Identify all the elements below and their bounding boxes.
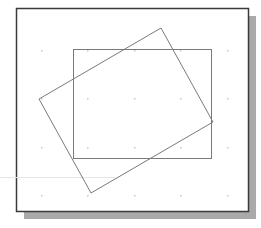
grid-dot: [41, 147, 43, 149]
grid-dot: [180, 147, 182, 149]
grid-dot: [180, 50, 182, 52]
grid-dot: [87, 50, 89, 52]
grid-dot: [134, 98, 136, 100]
viewport-frame: [17, 9, 249, 212]
grid-dot: [134, 147, 136, 149]
grid-dot: [180, 195, 182, 197]
grid-dot: [134, 50, 136, 52]
diagram-canvas: [0, 0, 261, 228]
grid-dot: [87, 195, 89, 197]
grid-dot: [41, 195, 43, 197]
grid-dot: [227, 98, 229, 100]
diagram-svg: [0, 0, 261, 228]
grid-dot: [134, 195, 136, 197]
grid-dot: [227, 50, 229, 52]
grid-dot: [87, 98, 89, 100]
grid-dot: [41, 50, 43, 52]
grid-dot: [180, 98, 182, 100]
grid-dot: [87, 147, 89, 149]
grid-dot: [227, 147, 229, 149]
grid-dot: [227, 195, 229, 197]
